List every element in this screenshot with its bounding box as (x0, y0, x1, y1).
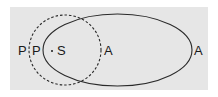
venn-diagram: P P S A A (0, 0, 218, 97)
label-s: S (57, 43, 66, 58)
label-a-outer: A (194, 43, 203, 58)
label-a-inner: A (104, 43, 113, 58)
label-p-inner: P (32, 43, 41, 58)
label-p-outer: P (18, 43, 27, 58)
point-dot (51, 50, 53, 52)
